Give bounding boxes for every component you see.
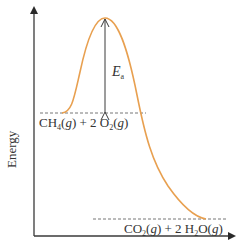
products-label: CO2(g) + 2 H2O(g)	[124, 221, 223, 238]
reactants-label: CH4(g) + 2 O2(g)	[39, 115, 128, 132]
y-axis-label: Energy	[4, 131, 20, 168]
product-close: )	[218, 221, 222, 236]
ea-subscript: a	[121, 72, 125, 81]
reactant-plus-o: ) + 2 O	[72, 115, 109, 130]
reactant-close: )	[124, 115, 128, 130]
product-o-paren: O(	[198, 221, 212, 236]
activation-energy-label: Ea	[112, 64, 124, 81]
y-axis-label-wrap: Energy	[4, 168, 18, 218]
product-co: CO	[124, 221, 142, 236]
ea-symbol: E	[112, 64, 121, 79]
product-plus-h: ) + 2 H	[157, 221, 194, 236]
reactant-ch: CH	[39, 115, 57, 130]
